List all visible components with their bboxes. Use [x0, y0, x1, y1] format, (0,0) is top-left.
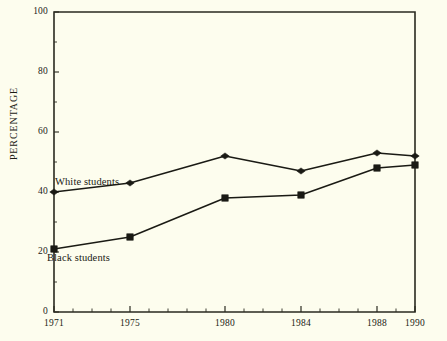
x-tick-1980: 1980: [205, 318, 245, 328]
y-tick-0: 0: [20, 306, 48, 316]
y-tick-40: 40: [20, 186, 48, 196]
x-tick-1975: 1975: [110, 318, 150, 328]
y-tick-20: 20: [20, 246, 48, 256]
x-tick-1971: 1971: [34, 318, 74, 328]
x-tick-1984: 1984: [281, 318, 321, 328]
y-axis-label: PERCENTAGE: [8, 69, 19, 179]
x-tick-1988: 1988: [357, 318, 397, 328]
y-tick-60: 60: [20, 126, 48, 136]
chart-container: PERCENTAGE 020406080100 1971197519801984…: [0, 0, 447, 341]
y-tick-80: 80: [20, 66, 48, 76]
x-tick-1990: 1990: [395, 318, 435, 328]
series-label-black-students: Black students: [47, 252, 110, 263]
y-tick-100: 100: [20, 6, 48, 16]
line-chart-plot: [0, 0, 447, 341]
series-label-white-students: White students: [55, 176, 119, 187]
